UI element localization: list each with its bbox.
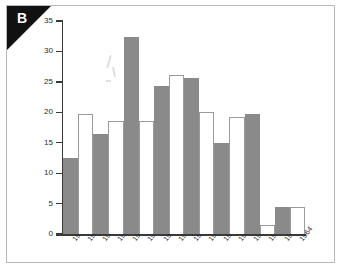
figure-panel: B Thousands of People 05101520253035 194… [0, 0, 342, 275]
bar-1964 [290, 207, 305, 234]
bar-1963 [275, 207, 290, 234]
bar-1954 [139, 121, 154, 234]
bar-1955 [154, 86, 169, 234]
y-tick-mark [56, 173, 62, 174]
bar-1961 [245, 114, 260, 234]
y-tick-label: 20 [30, 108, 53, 116]
bar-1953 [124, 37, 139, 234]
y-tick-label: 5 [30, 200, 53, 208]
bar-1958 [199, 112, 214, 234]
bar-1959 [214, 143, 229, 234]
y-tick-mark [56, 51, 62, 52]
bar-1949 [63, 158, 78, 234]
y-tick-mark [56, 20, 62, 21]
y-tick-label: 15 [30, 139, 53, 147]
bar-1950 [78, 114, 93, 234]
y-tick-mark [56, 203, 62, 204]
y-tick-label: 35 [30, 17, 53, 25]
bar-1952 [108, 121, 123, 234]
y-tick-label: 10 [30, 169, 53, 177]
y-tick-mark [56, 233, 62, 234]
bar-1957 [184, 78, 199, 234]
y-tick-label: 25 [30, 78, 53, 86]
plot-area [63, 21, 305, 234]
y-tick-mark [56, 112, 62, 113]
bar-1962 [260, 225, 275, 234]
bar-1956 [169, 75, 184, 234]
y-tick-label: 30 [30, 47, 53, 55]
bar-1960 [229, 117, 244, 234]
y-tick-label: 0 [30, 230, 53, 238]
bar-1951 [93, 134, 108, 234]
y-tick-mark [56, 142, 62, 143]
y-tick-mark [56, 81, 62, 82]
